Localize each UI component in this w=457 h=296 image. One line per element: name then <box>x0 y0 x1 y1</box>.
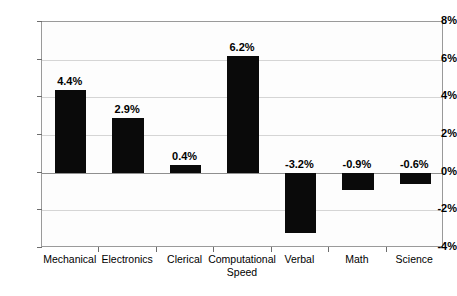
bar <box>170 165 201 173</box>
x-axis-tick-mark <box>98 247 99 252</box>
bar <box>227 56 258 173</box>
x-axis-category-label: Science <box>380 253 449 266</box>
x-axis-tick-mark <box>328 247 329 252</box>
y-axis-tick-label: -2% <box>423 203 457 214</box>
x-axis-tick-mark <box>156 247 157 252</box>
y-axis-tick-mark <box>37 21 42 22</box>
zero-line <box>42 173 442 174</box>
y-axis-tick-mark <box>37 96 42 97</box>
bar <box>342 173 373 190</box>
y-axis-tick-mark <box>37 209 42 210</box>
gridline <box>42 210 442 211</box>
bar <box>55 90 86 173</box>
y-axis-tick-label: 6% <box>423 53 457 64</box>
bar-value-label: -3.2% <box>271 158 328 170</box>
bar-value-label: 2.9% <box>98 103 155 115</box>
y-axis-tick-label: 8% <box>423 15 457 26</box>
y-axis-tick-label: 2% <box>423 128 457 139</box>
bar-value-label: 6.2% <box>213 41 270 53</box>
bar-value-label: -0.6% <box>386 158 443 170</box>
bar-value-label: 0.4% <box>156 150 213 162</box>
bar <box>285 173 316 233</box>
y-axis-tick-mark <box>37 172 42 173</box>
x-axis-tick-mark <box>271 247 272 252</box>
y-axis-tick-label: -4% <box>423 241 457 252</box>
bar-value-label: 4.4% <box>41 75 98 87</box>
x-axis-tick-mark <box>213 247 214 252</box>
bar <box>112 118 143 173</box>
plot-area <box>41 21 443 247</box>
y-axis-tick-label: 4% <box>423 90 457 101</box>
bar-chart: 8%6%4%2%0%-2%-4% MechanicalElectronicsCl… <box>0 0 457 296</box>
y-axis-tick-mark <box>37 59 42 60</box>
x-axis-tick-mark <box>386 247 387 252</box>
bar-value-label: -0.9% <box>328 158 385 170</box>
y-axis-tick-mark <box>37 247 42 248</box>
y-axis-tick-mark <box>37 134 42 135</box>
